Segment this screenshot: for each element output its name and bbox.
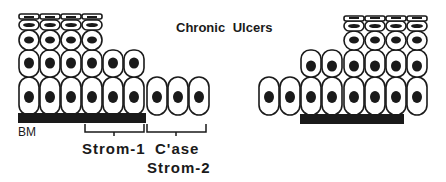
- case-label: C'ase: [155, 140, 199, 157]
- left-granular-row: [19, 20, 102, 30]
- left-basement-membrane: [18, 113, 146, 123]
- right-spinous-row: [344, 31, 427, 50]
- case-bracket: [147, 124, 206, 136]
- right-granular-row: [344, 21, 427, 31]
- left-squame-row: [19, 14, 102, 19]
- strom2-label: Strom-2: [147, 159, 211, 176]
- right-basement-membrane: [300, 114, 404, 124]
- right-suprabasal-row: [301, 50, 427, 77]
- strom1-bracket: [85, 124, 144, 136]
- strom1-label: Strom-1: [82, 140, 146, 157]
- right-squame-row: [344, 16, 427, 21]
- right-basal-row: [259, 77, 427, 115]
- bm-label: BM: [18, 125, 36, 139]
- diagram-title: Chronic Ulcers: [176, 20, 272, 35]
- left-suprabasal-row: [19, 50, 144, 77]
- left-spinous-row: [19, 30, 102, 50]
- left-basal-row: [19, 77, 209, 115]
